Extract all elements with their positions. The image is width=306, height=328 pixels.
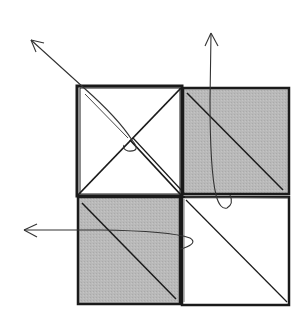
- top-left-quadrant: [77, 86, 184, 196]
- origami-diagram: [0, 0, 306, 328]
- bottom-right-quadrant: [182, 197, 289, 305]
- bottom-left-quadrant: [78, 197, 180, 304]
- top-right-quadrant: [183, 88, 289, 194]
